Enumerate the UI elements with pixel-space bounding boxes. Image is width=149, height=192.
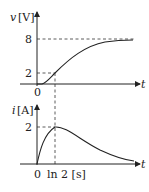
i-origin: 0 bbox=[34, 168, 41, 181]
i-x-axis-label: t bbox=[141, 158, 146, 171]
i-axis-unit: [A] bbox=[17, 104, 34, 117]
i-curve bbox=[37, 127, 134, 164]
i-tick-2: 2 bbox=[25, 121, 32, 134]
v-axis-var: v bbox=[10, 11, 17, 24]
current-graph: i [A] 2 0 ln 2 [s] t bbox=[12, 104, 146, 181]
v-tick-2: 2 bbox=[25, 67, 32, 80]
v-origin: 0 bbox=[34, 86, 41, 99]
svg-text:v: v bbox=[10, 11, 17, 24]
v-axis-unit: [V] bbox=[18, 11, 35, 24]
i-axis-var: i bbox=[12, 104, 16, 117]
v-x-axis-label: t bbox=[141, 78, 146, 91]
voltage-current-diagram: v [V] 8 2 0 t i [A] 2 0 ln 2 [s] t bbox=[0, 0, 149, 192]
v-tick-8: 8 bbox=[25, 33, 32, 46]
v-curve bbox=[37, 40, 133, 84]
svg-text:i: i bbox=[12, 104, 16, 117]
voltage-graph: v [V] 8 2 0 t bbox=[10, 11, 146, 99]
i-x-tick-ln2: ln 2 [s] bbox=[47, 168, 86, 181]
